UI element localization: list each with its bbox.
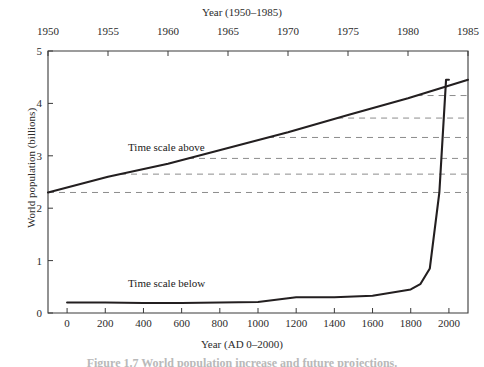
y-tick-label: 3 [24, 150, 42, 162]
y-tick-label: 1 [24, 255, 42, 267]
bottom-tick-label: 200 [97, 317, 114, 329]
y-tick-label: 0 [24, 307, 42, 319]
bottom-tick-label: 1200 [285, 317, 307, 329]
data-series-lines [48, 80, 468, 303]
y-tick-label: 5 [24, 45, 42, 57]
top-tick-label: 1970 [277, 25, 299, 37]
plot-border [48, 51, 468, 313]
top-axis-ticks [48, 51, 468, 56]
top-tick-label: 1980 [397, 25, 419, 37]
top-tick-label: 1950 [37, 25, 59, 37]
axis-frame [48, 51, 468, 313]
bottom-tick-label: 1000 [247, 317, 269, 329]
bottom-tick-label: 1600 [362, 317, 384, 329]
series-line-below [67, 80, 449, 303]
y-tick-label: 4 [24, 97, 42, 109]
top-tick-label: 1975 [337, 25, 359, 37]
bottom-tick-label: 1800 [400, 317, 422, 329]
top-tick-label: 1960 [157, 25, 179, 37]
top-tick-label: 1965 [217, 25, 239, 37]
top-tick-label: 1985 [457, 25, 479, 37]
bottom-tick-label: 0 [64, 317, 70, 329]
y-axis-ticks [48, 51, 53, 313]
series-line-above [48, 80, 468, 193]
top-tick-label: 1955 [97, 25, 119, 37]
bottom-tick-label: 600 [173, 317, 190, 329]
bottom-axis-ticks [67, 308, 449, 313]
bottom-tick-label: 400 [135, 317, 152, 329]
reference-dashed-lines [48, 96, 468, 193]
bottom-tick-label: 1400 [323, 317, 345, 329]
y-tick-label: 2 [24, 202, 42, 214]
plot-canvas [0, 0, 484, 367]
population-growth-figure: Year (1950–1985) World population (billi… [0, 0, 484, 367]
bottom-tick-label: 800 [212, 317, 229, 329]
bottom-tick-label: 2000 [438, 317, 460, 329]
